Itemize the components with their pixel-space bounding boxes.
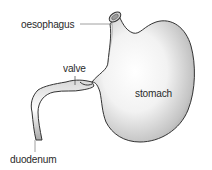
label-valve: valve [63,63,86,75]
stomach-diagram: oesophagus valve stomach duodenum [0,0,212,170]
stomach-body [92,14,194,142]
label-oesophagus: oesophagus [21,19,74,31]
label-stomach: stomach [135,88,172,100]
label-duodenum: duodenum [10,154,56,166]
duodenum-tube [31,80,94,140]
